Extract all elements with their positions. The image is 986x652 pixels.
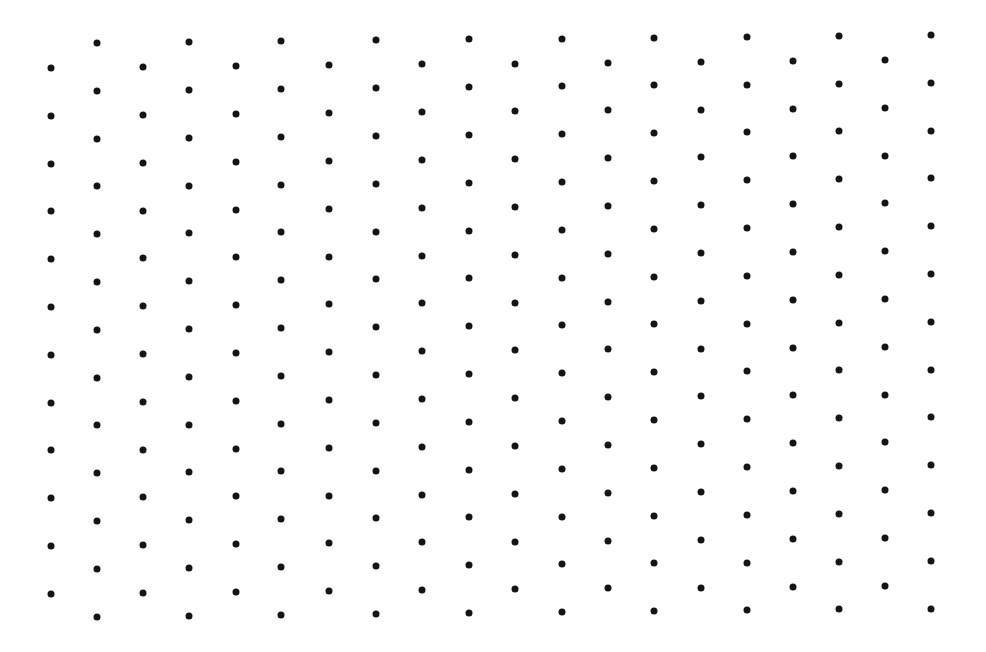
dot	[559, 561, 566, 568]
dot	[94, 231, 101, 238]
dot	[559, 131, 566, 138]
dot	[186, 469, 193, 476]
dot	[790, 344, 797, 351]
dot	[466, 275, 473, 282]
dot	[278, 325, 285, 332]
dot	[744, 129, 751, 136]
dot	[186, 325, 193, 332]
dot	[698, 106, 705, 113]
dot	[419, 443, 426, 450]
dot	[48, 590, 55, 597]
dot	[836, 224, 843, 231]
dot	[790, 488, 797, 495]
dot	[373, 132, 380, 139]
dot	[140, 255, 147, 262]
dot	[836, 32, 843, 39]
dot	[278, 516, 285, 523]
dot	[48, 304, 55, 311]
dot	[466, 466, 473, 473]
dot	[140, 350, 147, 357]
dot	[882, 295, 889, 302]
dot	[605, 585, 612, 592]
dot	[698, 249, 705, 256]
dot	[48, 495, 55, 502]
dot	[882, 582, 889, 589]
dot	[836, 463, 843, 470]
dot	[744, 33, 751, 40]
dot	[651, 273, 658, 280]
dot	[140, 111, 147, 118]
dot	[233, 589, 240, 596]
dot	[928, 31, 935, 38]
dot	[419, 300, 426, 307]
dot	[186, 373, 193, 380]
dot	[48, 65, 55, 72]
dot	[698, 154, 705, 161]
dot	[186, 134, 193, 141]
dot	[140, 303, 147, 310]
dot	[744, 272, 751, 279]
dot	[698, 202, 705, 209]
dot	[48, 256, 55, 263]
dot	[466, 610, 473, 617]
dot	[744, 607, 751, 614]
dot	[836, 367, 843, 374]
dot	[373, 276, 380, 283]
dot	[373, 371, 380, 378]
dot	[698, 345, 705, 352]
dot	[94, 183, 101, 190]
dot	[698, 488, 705, 495]
dot	[233, 493, 240, 500]
dot	[326, 62, 333, 69]
dot	[48, 160, 55, 167]
dot	[466, 562, 473, 569]
dot	[278, 468, 285, 475]
dot	[94, 518, 101, 525]
dot	[651, 82, 658, 89]
dot	[466, 179, 473, 186]
dot	[94, 40, 101, 47]
dot	[233, 254, 240, 261]
dot	[559, 83, 566, 90]
dot	[651, 417, 658, 424]
dot	[512, 347, 519, 354]
dot	[790, 440, 797, 447]
dot	[559, 35, 566, 42]
dot	[512, 299, 519, 306]
dot	[278, 133, 285, 140]
dot	[419, 109, 426, 116]
dot	[466, 371, 473, 378]
dot	[373, 419, 380, 426]
dot	[512, 156, 519, 163]
dot	[326, 588, 333, 595]
dot	[651, 560, 658, 567]
dot	[651, 512, 658, 519]
dot	[48, 447, 55, 454]
dot	[836, 271, 843, 278]
dot	[466, 514, 473, 521]
dot	[512, 538, 519, 545]
dot	[419, 157, 426, 164]
dot	[559, 370, 566, 377]
dot	[928, 127, 935, 134]
dot	[790, 201, 797, 208]
dot	[790, 153, 797, 160]
dot	[790, 249, 797, 256]
dot	[186, 612, 193, 619]
dot	[605, 346, 612, 353]
dot	[928, 79, 935, 86]
dot	[605, 250, 612, 257]
dot	[651, 34, 658, 41]
dot	[94, 470, 101, 477]
dot	[94, 279, 101, 286]
dot	[186, 564, 193, 571]
dot	[790, 583, 797, 590]
dot	[744, 511, 751, 518]
dot	[559, 465, 566, 472]
dot	[466, 84, 473, 91]
dot	[140, 542, 147, 549]
dot	[512, 395, 519, 402]
dot	[928, 557, 935, 564]
dot	[605, 203, 612, 210]
dot	[605, 59, 612, 66]
